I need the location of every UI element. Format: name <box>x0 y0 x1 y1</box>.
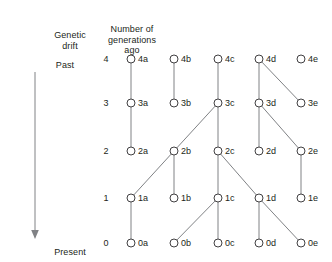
individual-node-label: 1e <box>308 193 318 203</box>
individual-node-label: 0c <box>225 238 235 248</box>
individual-node <box>255 194 263 202</box>
individual-node-label: 4a <box>138 54 148 64</box>
individual-node-label: 4c <box>225 54 235 64</box>
individual-node-label: 1a <box>138 193 148 203</box>
individual-node <box>255 99 263 107</box>
individual-node <box>297 99 305 107</box>
individual-node <box>214 55 222 63</box>
individual-node <box>127 55 135 63</box>
individual-node <box>170 99 178 107</box>
lineage-nodes <box>0 0 332 262</box>
individual-node-label: 3e <box>308 98 318 108</box>
individual-node <box>297 194 305 202</box>
individual-node <box>214 239 222 247</box>
individual-node-label: 3b <box>181 98 191 108</box>
individual-node-label: 2a <box>138 146 148 156</box>
individual-node-label: 3d <box>266 98 276 108</box>
individual-node <box>127 194 135 202</box>
individual-node-label: 0e <box>308 238 318 248</box>
individual-node <box>127 147 135 155</box>
individual-node <box>170 147 178 155</box>
individual-node <box>214 99 222 107</box>
individual-node-label: 2d <box>266 146 276 156</box>
individual-node-label: 1d <box>266 193 276 203</box>
individual-node-label: 0a <box>138 238 148 248</box>
individual-node <box>127 239 135 247</box>
individual-node-label: 4e <box>308 54 318 64</box>
genetic-drift-diagram: Genetic drift Number of generations ago … <box>0 0 332 262</box>
individual-node <box>170 55 178 63</box>
individual-node <box>255 239 263 247</box>
individual-node-label: 3c <box>225 98 235 108</box>
individual-node <box>255 147 263 155</box>
individual-node <box>170 194 178 202</box>
individual-node-label: 0b <box>181 238 191 248</box>
individual-node <box>297 239 305 247</box>
individual-node <box>297 55 305 63</box>
individual-node <box>255 55 263 63</box>
individual-node <box>297 147 305 155</box>
individual-node-label: 1c <box>225 193 235 203</box>
individual-node <box>214 147 222 155</box>
individual-node <box>127 99 135 107</box>
individual-node-label: 0d <box>266 238 276 248</box>
individual-node-label: 4b <box>181 54 191 64</box>
individual-node-label: 2b <box>181 146 191 156</box>
individual-node-label: 3a <box>138 98 148 108</box>
individual-node-label: 4d <box>266 54 276 64</box>
individual-node-label: 1b <box>181 193 191 203</box>
individual-node <box>170 239 178 247</box>
individual-node-label: 2c <box>225 146 235 156</box>
individual-node <box>214 194 222 202</box>
individual-node-label: 2e <box>308 146 318 156</box>
